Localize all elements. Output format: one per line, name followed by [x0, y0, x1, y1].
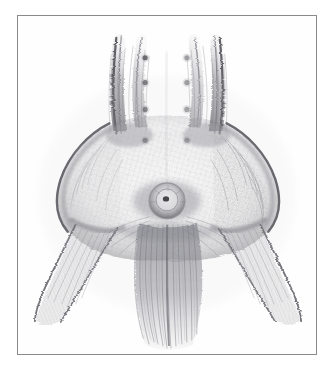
- picture-frame: Pencil drawing of animal hindquarters (r…: [17, 15, 317, 355]
- pencil-drawing-artwork: [18, 16, 316, 354]
- paper-smudges: [38, 76, 296, 315]
- drawing-page: Pencil drawing of animal hindquarters (r…: [0, 0, 334, 367]
